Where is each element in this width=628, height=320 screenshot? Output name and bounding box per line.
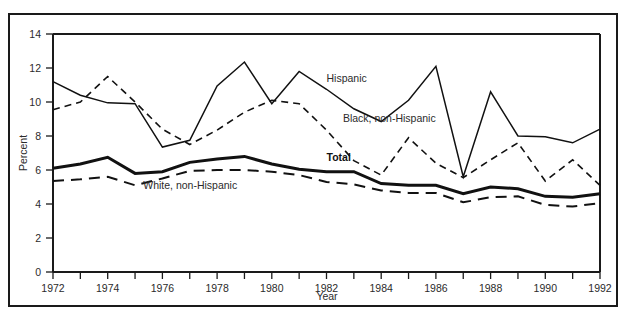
- series-group: [53, 62, 600, 207]
- series-label-total: Total: [327, 151, 351, 163]
- x-tick-label: 1992: [588, 282, 612, 294]
- x-tick-label: 1972: [41, 282, 65, 294]
- line-chart: 02468101214 Percent 19721974197619781980…: [0, 0, 628, 320]
- y-tick-group: 02468101214: [29, 28, 53, 278]
- series-label-white-non-hispanic: White, non-Hispanic: [143, 179, 237, 191]
- y-tick-label: 8: [35, 130, 41, 142]
- x-tick-label: 1986: [424, 282, 448, 294]
- series-label-black-non-hispanic: Black, non-Hispanic: [343, 112, 436, 124]
- figure-root: 02468101214 Percent 19721974197619781980…: [0, 0, 628, 320]
- x-tick-label: 1988: [479, 282, 503, 294]
- x-tick-label: 1974: [96, 282, 120, 294]
- x-axis-group: 1972197419761978198019821984198619881990…: [41, 272, 612, 302]
- x-axis-title: Year: [316, 290, 338, 302]
- x-tick-label: 1978: [205, 282, 229, 294]
- series-label-group: HispanicBlack, non-HispanicTotalWhite, n…: [143, 72, 435, 191]
- y-tick-label: 14: [29, 28, 41, 40]
- y-tick-label: 12: [29, 62, 41, 74]
- y-tick-label: 6: [35, 164, 41, 176]
- series-path-black-non-hispanic: [53, 77, 600, 186]
- series-label-hispanic: Hispanic: [327, 72, 367, 84]
- y-tick-label: 4: [35, 198, 41, 210]
- x-tick-label: 1990: [534, 282, 558, 294]
- y-tick-label: 0: [35, 266, 41, 278]
- x-tick-label: 1984: [370, 282, 394, 294]
- y-tick-label: 2: [35, 232, 41, 244]
- y-axis-title: Percent: [17, 135, 29, 171]
- y-tick-label: 10: [29, 96, 41, 108]
- y-axis-group: 02468101214 Percent: [17, 28, 53, 278]
- x-tick-label: 1976: [151, 282, 175, 294]
- x-tick-label: 1980: [260, 282, 284, 294]
